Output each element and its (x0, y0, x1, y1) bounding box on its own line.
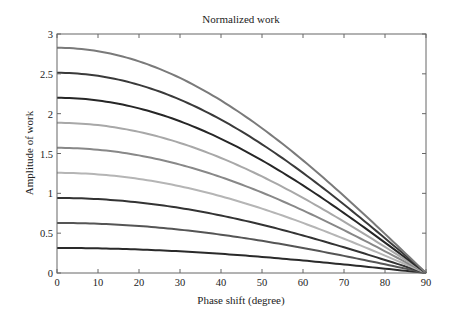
x-tick-label: 90 (421, 277, 432, 288)
y-tick-label: 1.5 (40, 149, 53, 160)
y-tick-label: 2 (48, 109, 53, 120)
x-tick-label: 10 (93, 277, 104, 288)
x-tick-label: 60 (298, 277, 309, 288)
x-axis-label: Phase shift (degree) (197, 294, 285, 307)
y-tick-label: 0.5 (40, 228, 53, 239)
x-tick-label: 40 (216, 277, 227, 288)
x-axis-ticks: 0102030405060708090 (54, 34, 431, 288)
y-tick-label: 2.5 (40, 69, 53, 80)
x-tick-label: 0 (54, 277, 59, 288)
y-axis-label: Amplitude of work (23, 110, 35, 195)
data-curves (57, 48, 426, 273)
x-tick-label: 30 (175, 277, 186, 288)
curve-4 (57, 173, 426, 273)
x-tick-label: 70 (339, 277, 350, 288)
y-tick-label: 1 (48, 188, 53, 199)
x-tick-label: 80 (380, 277, 391, 288)
x-tick-label: 50 (257, 277, 268, 288)
y-tick-label: 3 (48, 29, 53, 40)
chart: Normalized work 0102030405060708090 00.5… (0, 0, 451, 318)
chart-title: Normalized work (202, 13, 280, 25)
x-tick-label: 20 (134, 277, 145, 288)
y-tick-label: 0 (48, 268, 53, 279)
curve-9 (57, 48, 426, 273)
